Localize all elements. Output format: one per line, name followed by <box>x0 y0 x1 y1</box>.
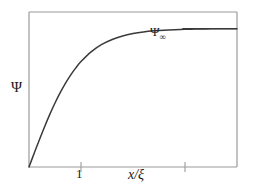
x-axis-label: x/ξ <box>128 168 144 182</box>
plot-canvas <box>0 0 253 192</box>
data-curve-psi <box>29 29 237 167</box>
plot-frame <box>29 12 237 167</box>
asymptote-label-base: Ψ <box>150 24 160 39</box>
x-tick-label-1: 1 <box>76 167 83 180</box>
asymptote-label-subscript: ∞ <box>160 32 166 42</box>
asymptote-label: Ψ∞ <box>150 25 166 42</box>
figure-container: Ψ Ψ∞ x/ξ 1 <box>0 0 253 192</box>
y-axis-label: Ψ <box>11 80 22 95</box>
